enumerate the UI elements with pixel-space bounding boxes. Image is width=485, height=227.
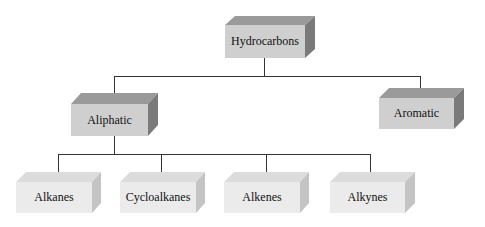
node-label: Cycloalkanes	[120, 182, 196, 213]
node-cycloalkanes: Cycloalkanes	[120, 172, 205, 213]
connector-level2-horizontal	[58, 154, 371, 155]
connector-aliphatic-down	[114, 136, 115, 154]
node-alkynes: Alkynes	[330, 172, 415, 213]
hydrocarbon-classification-diagram: Hydrocarbons Aliphatic Aromatic Alkanes	[0, 0, 485, 227]
node-label: Alkynes	[330, 182, 405, 213]
connector-level1-horizontal	[114, 76, 421, 77]
node-label: Aliphatic	[71, 104, 148, 136]
node-label: Hydrocarbons	[225, 25, 305, 58]
node-aromatic: Aromatic	[379, 88, 464, 129]
node-hydrocarbons: Hydrocarbons	[225, 16, 315, 58]
node-aliphatic: Aliphatic	[71, 93, 158, 136]
connector-root-down	[264, 57, 265, 76]
node-alkenes: Alkenes	[224, 172, 309, 213]
node-label: Alkanes	[16, 182, 92, 213]
node-label: Alkenes	[224, 182, 300, 213]
node-alkanes: Alkanes	[16, 172, 101, 213]
node-label: Aromatic	[379, 98, 454, 129]
